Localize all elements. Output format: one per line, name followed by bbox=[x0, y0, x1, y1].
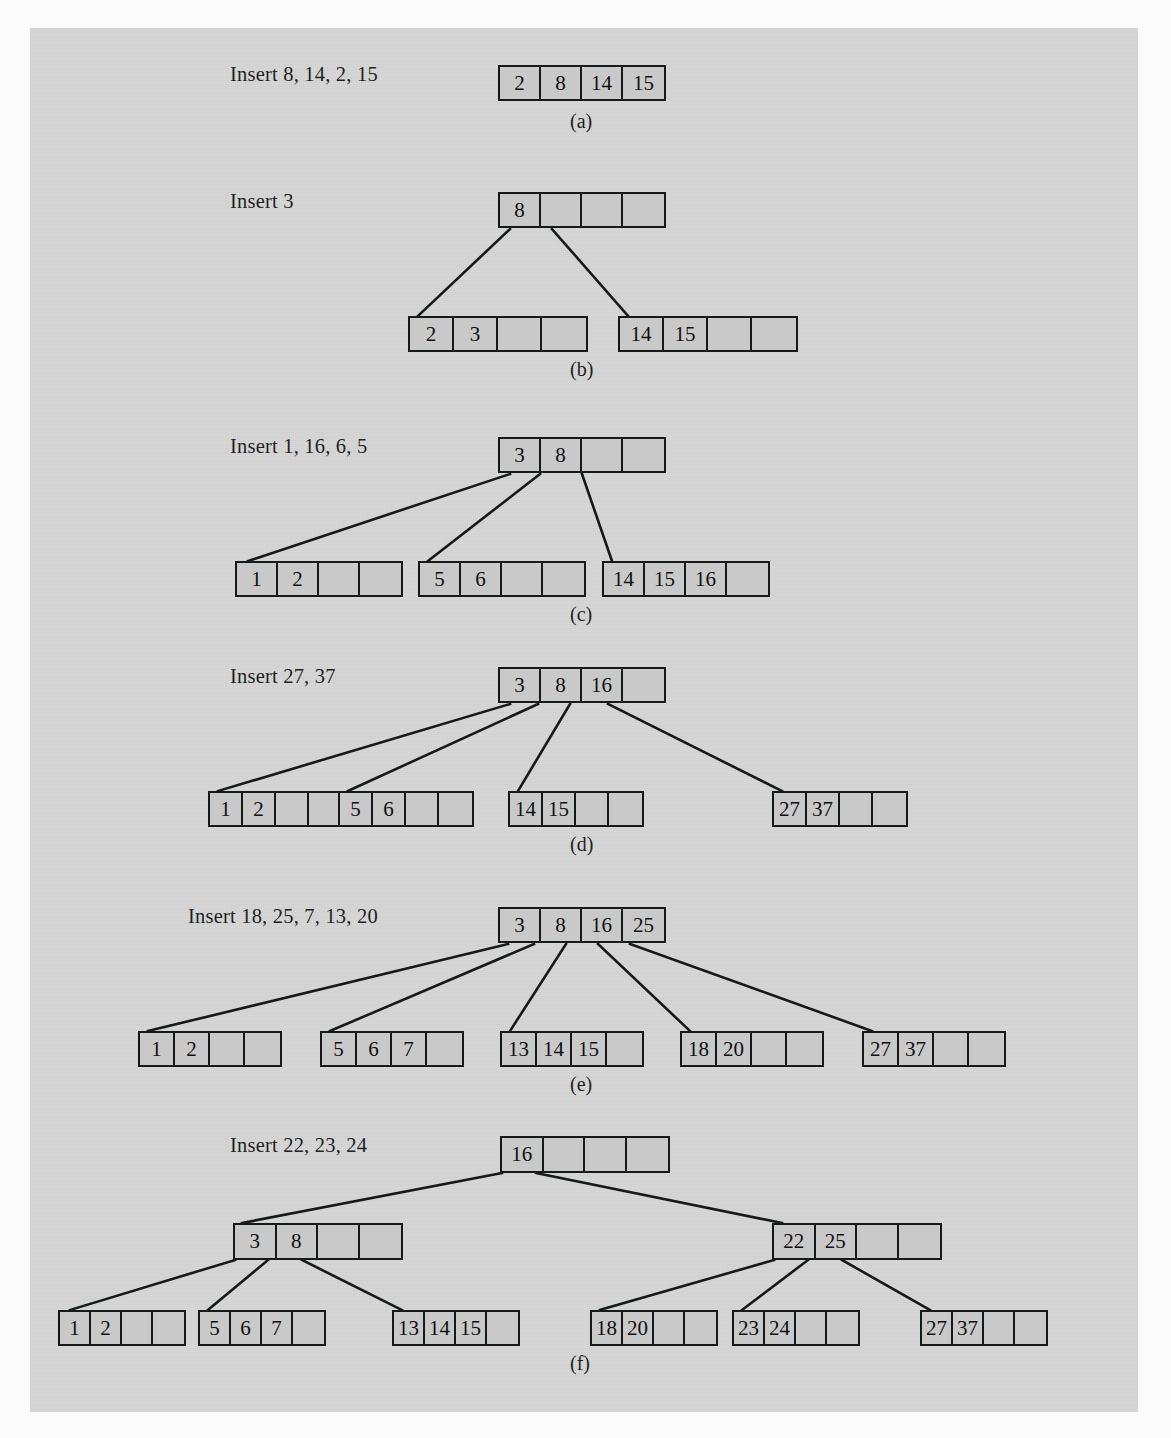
panel-d-letter: (d) bbox=[570, 833, 593, 856]
node-cell: 37 bbox=[953, 1312, 984, 1344]
node-cell: 3 bbox=[235, 1225, 277, 1258]
node-cell bbox=[318, 1225, 360, 1258]
panel-d: Insert 27, 37 3 8 16 1 2 5 6 bbox=[30, 643, 1138, 848]
node-cell: 14 bbox=[604, 563, 645, 595]
node-cell: 7 bbox=[262, 1312, 293, 1344]
panel-d-root-node: 3 8 16 bbox=[498, 667, 666, 703]
node-cell bbox=[873, 793, 906, 825]
node-cell: 6 bbox=[461, 563, 502, 595]
panel-f-leaf-node: 18 20 bbox=[590, 1310, 718, 1346]
node-cell bbox=[752, 1033, 787, 1065]
node-cell: 3 bbox=[500, 669, 541, 701]
node-cell bbox=[544, 1138, 586, 1171]
node-cell bbox=[585, 1138, 627, 1171]
panel-c: Insert 1, 16, 6, 5 3 8 1 2 5 6 bbox=[30, 413, 1138, 618]
node-cell: 14 bbox=[510, 793, 543, 825]
node-cell bbox=[627, 1138, 668, 1171]
node-cell bbox=[122, 1312, 153, 1344]
panel-f-leaf-node: 13 14 15 bbox=[392, 1310, 520, 1346]
node-cell: 37 bbox=[807, 793, 840, 825]
panel-b-root-node: 8 bbox=[498, 192, 666, 228]
panel-c-letter: (c) bbox=[570, 603, 592, 626]
panel-b-leaf-node: 2 3 bbox=[408, 316, 588, 352]
panel-b-leaf-node: 14 15 bbox=[618, 316, 798, 352]
node-cell: 15 bbox=[664, 318, 708, 350]
node-cell: 8 bbox=[541, 669, 582, 701]
panel-e-leaf-node: 27 37 bbox=[862, 1031, 1006, 1067]
node-cell bbox=[276, 793, 309, 825]
node-cell bbox=[1015, 1312, 1046, 1344]
panel-e-insert-label: Insert 18, 25, 7, 13, 20 bbox=[188, 905, 378, 928]
node-cell: 3 bbox=[500, 909, 541, 941]
node-cell: 14 bbox=[620, 318, 664, 350]
scanned-page: Insert 8, 14, 2, 15 2 8 14 15 (a) Insert… bbox=[0, 0, 1171, 1438]
panel-b-insert-label: Insert 3 bbox=[230, 190, 294, 213]
node-cell bbox=[623, 194, 664, 226]
node-cell bbox=[840, 793, 873, 825]
node-cell bbox=[502, 563, 543, 595]
node-cell: 16 bbox=[502, 1138, 544, 1171]
node-cell: 24 bbox=[765, 1312, 796, 1344]
node-cell: 27 bbox=[922, 1312, 953, 1344]
node-cell bbox=[406, 793, 439, 825]
node-cell: 15 bbox=[645, 563, 686, 595]
node-cell: 2 bbox=[175, 1033, 210, 1065]
node-cell bbox=[427, 1033, 462, 1065]
panel-d-leaf-node: 1 2 bbox=[208, 791, 344, 827]
panel-d-insert-label: Insert 27, 37 bbox=[230, 665, 336, 688]
node-cell: 3 bbox=[454, 318, 498, 350]
node-cell: 18 bbox=[592, 1312, 623, 1344]
node-cell: 1 bbox=[60, 1312, 91, 1344]
node-cell bbox=[245, 1033, 280, 1065]
node-cell bbox=[607, 1033, 642, 1065]
node-cell: 18 bbox=[682, 1033, 717, 1065]
node-cell bbox=[487, 1312, 518, 1344]
panel-e-leaf-node: 5 6 7 bbox=[320, 1031, 464, 1067]
node-cell: 2 bbox=[500, 67, 541, 99]
node-cell: 2 bbox=[278, 563, 319, 595]
node-cell bbox=[623, 439, 664, 471]
node-cell bbox=[293, 1312, 324, 1344]
node-cell: 8 bbox=[500, 194, 541, 226]
node-cell: 25 bbox=[623, 909, 664, 941]
node-cell: 5 bbox=[200, 1312, 231, 1344]
node-cell: 27 bbox=[864, 1033, 899, 1065]
node-cell: 20 bbox=[623, 1312, 654, 1344]
node-cell: 1 bbox=[140, 1033, 175, 1065]
figure-panel: Insert 8, 14, 2, 15 2 8 14 15 (a) Insert… bbox=[30, 28, 1138, 1412]
panel-f-letter: (f) bbox=[570, 1352, 590, 1375]
panel-f-root-node: 16 bbox=[500, 1136, 670, 1173]
node-cell: 1 bbox=[237, 563, 278, 595]
panel-f-leaf-node: 27 37 bbox=[920, 1310, 1048, 1346]
node-cell: 6 bbox=[373, 793, 406, 825]
node-cell: 16 bbox=[686, 563, 727, 595]
node-cell bbox=[787, 1033, 822, 1065]
node-cell: 15 bbox=[543, 793, 576, 825]
node-cell bbox=[623, 669, 664, 701]
node-cell: 1 bbox=[210, 793, 243, 825]
node-cell bbox=[984, 1312, 1015, 1344]
node-cell bbox=[857, 1225, 899, 1258]
panel-c-root-node: 3 8 bbox=[498, 437, 666, 473]
panel-d-leaf-node: 27 37 bbox=[772, 791, 908, 827]
node-cell bbox=[498, 318, 542, 350]
node-cell bbox=[439, 793, 472, 825]
panel-c-leaf-node: 1 2 bbox=[235, 561, 403, 597]
node-cell: 25 bbox=[816, 1225, 858, 1258]
node-cell: 2 bbox=[243, 793, 276, 825]
panel-f-insert-label: Insert 22, 23, 24 bbox=[230, 1134, 367, 1157]
panel-d-leaf-node: 5 6 bbox=[338, 791, 474, 827]
node-cell bbox=[796, 1312, 827, 1344]
node-cell bbox=[576, 793, 609, 825]
node-cell: 5 bbox=[420, 563, 461, 595]
node-cell: 15 bbox=[456, 1312, 487, 1344]
node-cell: 37 bbox=[899, 1033, 934, 1065]
node-cell: 15 bbox=[623, 67, 664, 99]
node-cell bbox=[541, 194, 582, 226]
panel-f-internal-node: 3 8 bbox=[233, 1223, 403, 1260]
node-cell: 8 bbox=[541, 909, 582, 941]
panel-e-letter: (e) bbox=[570, 1073, 592, 1096]
node-cell: 14 bbox=[537, 1033, 572, 1065]
node-cell: 2 bbox=[91, 1312, 122, 1344]
node-cell bbox=[210, 1033, 245, 1065]
